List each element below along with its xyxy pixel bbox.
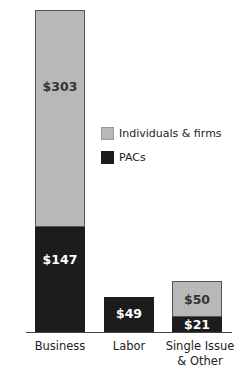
bar-single-issue: $50 $21 bbox=[172, 281, 222, 332]
value-label: $50 bbox=[173, 292, 221, 307]
value-label: $21 bbox=[172, 317, 222, 332]
legend-swatch-dark bbox=[101, 151, 114, 164]
bar-business-individuals: $303 bbox=[35, 10, 85, 227]
category-label-line2: & Other bbox=[160, 354, 240, 369]
category-label-line1: Single Issue bbox=[160, 339, 240, 354]
value-label: $303 bbox=[36, 79, 84, 94]
bar-labor-pacs: $49 bbox=[104, 297, 154, 332]
legend-label: PACs bbox=[119, 151, 146, 164]
bar-business-pacs: $147 bbox=[35, 227, 85, 332]
bar-single-individuals: $50 bbox=[172, 281, 222, 317]
legend-label: Individuals & firms bbox=[119, 127, 222, 140]
legend-swatch-light bbox=[101, 127, 114, 140]
category-label-labor: Labor bbox=[94, 339, 164, 354]
bar-single-pacs: $21 bbox=[172, 317, 222, 332]
value-label: $147 bbox=[35, 252, 85, 267]
value-label: $49 bbox=[104, 306, 154, 321]
category-label-single-issue: Single Issue & Other bbox=[160, 339, 240, 369]
legend-item-individuals: Individuals & firms bbox=[101, 127, 222, 140]
bar-labor: $49 bbox=[104, 297, 154, 332]
bar-business: $303 $147 bbox=[35, 10, 85, 332]
category-label-business: Business bbox=[25, 339, 95, 354]
legend-item-pacs: PACs bbox=[101, 151, 146, 164]
x-axis-line bbox=[26, 332, 232, 333]
